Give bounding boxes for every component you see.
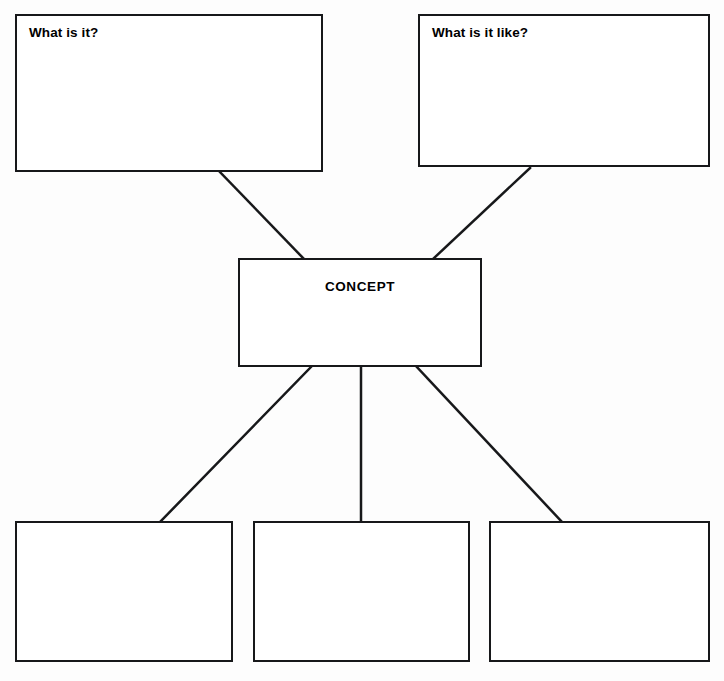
node-example-1[interactable]	[15, 521, 233, 662]
connector-what-is-it-to-concept	[220, 172, 304, 259]
node-label-what-is-it: What is it?	[29, 25, 98, 40]
node-label-what-is-it-like: What is it like?	[432, 25, 528, 40]
node-label-concept: CONCEPT	[240, 279, 480, 294]
connector-concept-to-example-1	[160, 366, 312, 522]
node-what-is-it[interactable]: What is it?	[15, 14, 323, 172]
node-what-is-it-like[interactable]: What is it like?	[418, 14, 710, 167]
node-example-2[interactable]	[253, 521, 470, 662]
node-example-3[interactable]	[489, 521, 710, 662]
concept-map-canvas: What is it? What is it like? CONCEPT	[0, 0, 724, 681]
connector-what-is-it-like-to-concept	[433, 168, 530, 259]
node-concept[interactable]: CONCEPT	[238, 258, 482, 367]
connector-concept-to-example-3	[416, 366, 562, 522]
